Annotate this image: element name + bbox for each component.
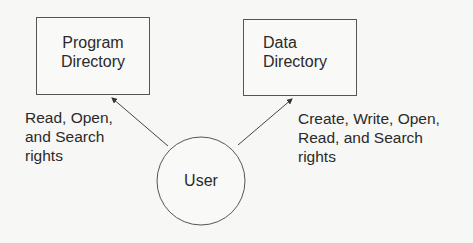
program-directory-line2: Directory (36, 52, 150, 71)
program-directory-label: Program Directory (36, 33, 150, 71)
edge-label-line: and Search (25, 127, 113, 146)
arrow-user-to-program (112, 98, 168, 146)
edge-label-line: Create, Write, Open, (298, 109, 440, 128)
edge-label-line: rights (25, 146, 113, 165)
data-directory-label: Data Directory (263, 33, 327, 71)
user-node-label: User (157, 171, 245, 190)
data-directory-line2: Directory (263, 52, 327, 71)
edge-label-line: rights (298, 147, 440, 166)
edge-label-line: Read, Open, (25, 108, 113, 127)
edge-label-line: Read, and Search (298, 128, 440, 147)
program-directory-line1: Program (36, 33, 150, 52)
data-directory-line1: Data (263, 33, 327, 52)
edge-label-program-rights: Read, Open, and Search rights (25, 108, 113, 165)
arrow-user-to-data (238, 99, 292, 145)
edge-label-data-rights: Create, Write, Open, Read, and Search ri… (298, 109, 440, 166)
